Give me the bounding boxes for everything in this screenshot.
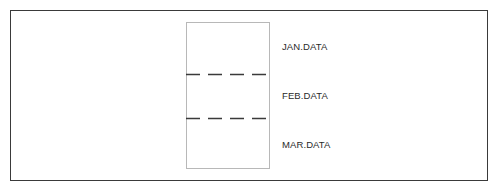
segment-label-jan: JAN.DATA: [282, 42, 327, 52]
segment-label-feb: FEB.DATA: [282, 91, 328, 101]
file-box: [186, 22, 270, 169]
segment-label-mar: MAR.DATA: [282, 140, 330, 150]
segment-divider-1: [186, 73, 270, 76]
segment-divider-2: [186, 117, 270, 120]
